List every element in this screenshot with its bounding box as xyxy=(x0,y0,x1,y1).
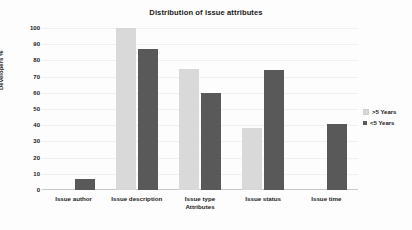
legend-label: <5 Years xyxy=(370,120,394,126)
y-axis-tick-labels: 1009080706050403020100 xyxy=(16,28,40,190)
x-axis-tick-label: Issue description xyxy=(105,194,168,203)
y-axis-tick-label: 100 xyxy=(16,25,40,31)
bar[interactable] xyxy=(138,49,158,190)
x-axis-tick-label: Issue author xyxy=(42,194,105,203)
bar[interactable] xyxy=(264,70,284,190)
y-axis-tick-label: 10 xyxy=(16,171,40,177)
y-axis-tick-label: 70 xyxy=(16,74,40,80)
y-axis-tick-label: 30 xyxy=(16,138,40,144)
plot-area xyxy=(42,28,358,190)
bar[interactable] xyxy=(75,179,95,190)
bar[interactable] xyxy=(116,28,136,190)
chart-title: Distribution of issue attributes xyxy=(0,8,412,17)
x-axis-tick-label: Issue status xyxy=(232,194,295,203)
bar-group xyxy=(232,28,295,190)
y-axis-title: Developers % xyxy=(0,51,4,90)
bar-group xyxy=(295,28,358,190)
bar[interactable] xyxy=(327,124,347,190)
bar[interactable] xyxy=(201,93,221,190)
y-axis-tick-label: 0 xyxy=(16,187,40,193)
chart-legend: >5 Years<5 Years xyxy=(363,106,396,128)
y-axis-tick-label: 40 xyxy=(16,122,40,128)
x-axis-tick-label: Issue type xyxy=(168,194,231,203)
y-axis-tick-label: 20 xyxy=(16,155,40,161)
y-axis-tick-label: 80 xyxy=(16,57,40,63)
bar-group xyxy=(168,28,231,190)
y-axis-tick-label: 50 xyxy=(16,106,40,112)
legend-label: >5 Years xyxy=(372,109,396,115)
legend-entry[interactable]: <5 Years xyxy=(363,117,396,128)
legend-swatch-icon xyxy=(363,121,367,125)
bar[interactable] xyxy=(242,128,262,190)
legend-entry[interactable]: >5 Years xyxy=(363,106,396,117)
chart-figure: Distribution of issue attributes Develop… xyxy=(0,0,412,230)
x-axis-tick-label: Issue time xyxy=(295,194,358,203)
y-axis-tick-label: 90 xyxy=(16,41,40,47)
y-axis-tick-label: 60 xyxy=(16,90,40,96)
bar-group xyxy=(105,28,168,190)
bar-group xyxy=(42,28,105,190)
legend-swatch-icon xyxy=(363,109,369,115)
bar[interactable] xyxy=(179,69,199,191)
x-axis-title: Attributes xyxy=(168,203,231,210)
